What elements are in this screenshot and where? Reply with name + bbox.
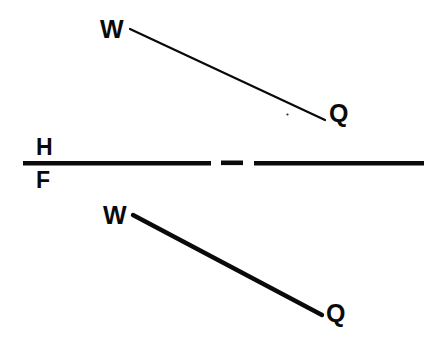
- figure-background: [0, 0, 433, 348]
- scan-speck-artifact: [286, 113, 288, 115]
- label-interface-h: H: [36, 136, 53, 159]
- label-upper-q: Q: [329, 101, 348, 126]
- label-lower-q: Q: [326, 301, 345, 326]
- label-lower-w: W: [103, 203, 126, 228]
- diagram-svg: [0, 0, 433, 348]
- figure-canvas: W Q H F W Q: [0, 0, 433, 348]
- label-interface-f: F: [36, 169, 50, 192]
- label-upper-w: W: [100, 17, 123, 42]
